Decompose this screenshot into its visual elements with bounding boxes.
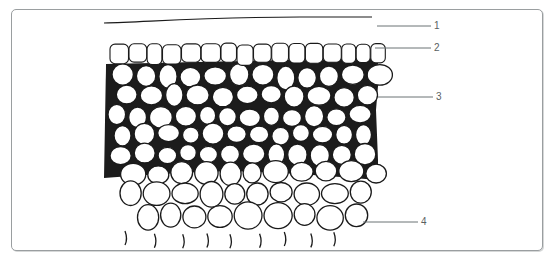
label-3: 3 bbox=[436, 92, 442, 102]
cell bbox=[334, 88, 354, 108]
cell bbox=[180, 145, 197, 161]
cell bbox=[120, 181, 141, 206]
cell bbox=[112, 64, 133, 85]
cell bbox=[270, 183, 292, 202]
cell bbox=[252, 64, 274, 85]
cell bbox=[357, 85, 377, 105]
cell bbox=[315, 161, 337, 181]
cell bbox=[158, 147, 177, 163]
cell bbox=[212, 87, 233, 106]
cell bbox=[171, 162, 193, 184]
cell bbox=[307, 86, 331, 105]
epidermis-cell bbox=[110, 44, 129, 64]
cell bbox=[200, 182, 223, 208]
cell bbox=[319, 66, 338, 86]
cell bbox=[327, 109, 346, 126]
epidermis-cell bbox=[182, 44, 201, 62]
cell bbox=[230, 64, 249, 86]
cell bbox=[336, 125, 353, 144]
cell bbox=[263, 161, 288, 183]
label-4: 4 bbox=[421, 217, 427, 227]
cell bbox=[243, 163, 261, 183]
cell bbox=[239, 109, 260, 127]
cell bbox=[172, 183, 198, 203]
cell bbox=[298, 68, 317, 89]
cell bbox=[356, 125, 372, 146]
cell bbox=[134, 123, 155, 144]
cell bbox=[284, 86, 304, 107]
cell-wall-strand bbox=[207, 234, 209, 248]
epidermis-cell bbox=[305, 43, 322, 63]
epidermis-cell bbox=[237, 45, 253, 65]
epidermis-cell bbox=[163, 45, 182, 64]
cell bbox=[305, 106, 324, 127]
cell bbox=[317, 206, 343, 230]
cell-wall-strand bbox=[260, 234, 262, 248]
cell bbox=[166, 84, 183, 107]
label-1: 1 bbox=[434, 21, 440, 31]
cell bbox=[322, 184, 349, 204]
cell bbox=[143, 182, 170, 206]
cell bbox=[350, 181, 371, 203]
cell bbox=[272, 127, 290, 145]
cell bbox=[234, 202, 262, 229]
epidermis-cell bbox=[323, 44, 341, 62]
cell bbox=[158, 125, 180, 142]
cell bbox=[349, 105, 371, 123]
epidermis-cell bbox=[147, 44, 162, 65]
cell bbox=[366, 164, 387, 183]
cell-wall-strand bbox=[183, 234, 185, 248]
cell-wall-strand bbox=[334, 232, 336, 246]
cell bbox=[264, 203, 292, 229]
cell bbox=[345, 204, 367, 227]
cell bbox=[225, 184, 245, 204]
label-2: 2 bbox=[434, 43, 440, 53]
cell bbox=[237, 86, 259, 104]
cell bbox=[339, 161, 364, 182]
cuticle-layer bbox=[104, 17, 372, 23]
cell bbox=[175, 106, 196, 126]
cell bbox=[183, 206, 206, 228]
cell bbox=[148, 166, 169, 184]
cell bbox=[138, 205, 159, 230]
cell-wall-strand bbox=[311, 233, 313, 247]
cell-grid bbox=[108, 64, 392, 249]
cell-wall-strand bbox=[230, 234, 232, 248]
cell bbox=[290, 162, 313, 181]
cell bbox=[341, 65, 364, 84]
epidermis-cell bbox=[356, 44, 370, 62]
cell bbox=[367, 65, 392, 86]
epidermis-cell bbox=[289, 44, 305, 64]
cell bbox=[200, 106, 216, 124]
epidermis-cell bbox=[129, 44, 147, 62]
cell bbox=[294, 204, 315, 226]
epidermis-cell bbox=[221, 43, 237, 62]
cell bbox=[195, 162, 218, 185]
cell bbox=[292, 125, 309, 142]
cell-wall-strand bbox=[125, 231, 127, 245]
cell bbox=[312, 126, 332, 143]
cell bbox=[204, 67, 227, 85]
cell bbox=[221, 145, 240, 163]
cell bbox=[183, 127, 200, 143]
cell bbox=[208, 206, 232, 228]
epidermis-layer bbox=[110, 43, 385, 65]
cell-wall-strand bbox=[154, 234, 156, 248]
cell bbox=[227, 126, 246, 142]
cell bbox=[202, 123, 224, 144]
cell bbox=[294, 183, 319, 205]
epidermis-cell bbox=[371, 44, 386, 63]
epidermis-cell bbox=[254, 44, 272, 62]
cell bbox=[220, 162, 241, 185]
epidermis-cell bbox=[272, 43, 289, 62]
tissue-diagram bbox=[0, 0, 552, 258]
cell bbox=[186, 85, 209, 105]
cell bbox=[114, 126, 131, 146]
cell bbox=[263, 107, 279, 125]
epidermis-cell bbox=[342, 44, 356, 63]
cell bbox=[136, 66, 155, 87]
cell bbox=[134, 143, 155, 163]
cell bbox=[116, 85, 137, 104]
cell bbox=[243, 144, 265, 163]
cell bbox=[261, 86, 281, 103]
